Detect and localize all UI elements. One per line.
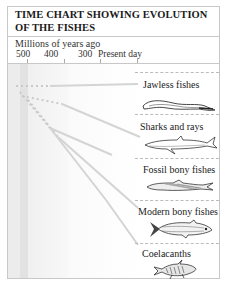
group-separator (135, 243, 219, 244)
group-label-coelacanths: Coelacanths (142, 248, 191, 259)
group-separator (135, 200, 219, 201)
shark-icon (143, 134, 218, 156)
group-label-jawless-fishes: Jawless fishes (143, 79, 199, 90)
group-label-modern-bony-fishes: Modern bony fishes (138, 206, 218, 217)
fossil-fish-icon (145, 177, 215, 195)
group-separator (135, 72, 219, 73)
group-separator (135, 158, 219, 159)
coelacanth-icon (152, 259, 198, 279)
lamprey-icon (141, 97, 216, 113)
group-separator (135, 114, 219, 115)
herring-icon (148, 218, 214, 240)
group-label-fossil-bony-fishes: Fossil bony fishes (143, 164, 215, 175)
group-label-sharks-and-rays: Sharks and rays (140, 121, 203, 132)
